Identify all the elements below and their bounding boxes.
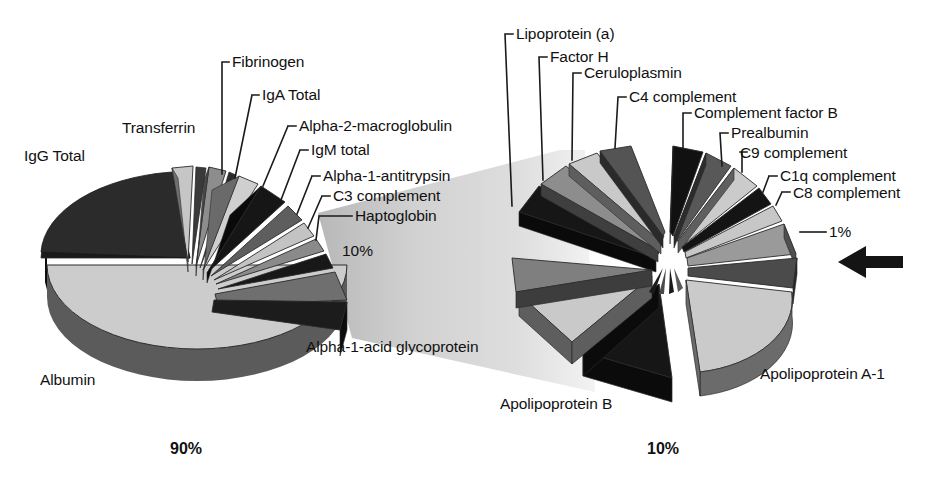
label-c3-complement: C3 complement bbox=[333, 188, 440, 204]
label-ceruloplasmin: Ceruloplasmin bbox=[584, 65, 682, 81]
leader-ceruloplasmin bbox=[572, 73, 581, 160]
leader-c3-complement bbox=[308, 196, 330, 228]
arrow-left-icon bbox=[838, 246, 903, 278]
label-haptoglobin: Haptoglobin bbox=[355, 208, 437, 224]
leader-c4-complement bbox=[615, 97, 626, 148]
right-pie-inner-percent: 1% bbox=[829, 224, 851, 240]
leader-alpha-2-macroglobulin bbox=[263, 126, 296, 186]
leader-fibrinogen bbox=[222, 62, 229, 174]
leader-c1q-complement bbox=[763, 176, 777, 192]
label-apolipoprotein-a1: Apolipoprotein A-1 bbox=[760, 366, 885, 382]
label-prealbumin: Prealbumin bbox=[731, 125, 808, 141]
left-pie-footer-percent: 90% bbox=[170, 441, 202, 457]
leader-c8-complement bbox=[776, 192, 790, 205]
leader-prealbumin bbox=[720, 133, 728, 166]
label-c1q-complement: C1q complement bbox=[780, 168, 896, 184]
figure-root: IgG Total Transferrin Fibrinogen IgA Tot… bbox=[0, 0, 952, 489]
label-lipoprotein-a: Lipoprotein (a) bbox=[516, 26, 614, 42]
label-igm-total: IgM total bbox=[311, 142, 370, 158]
right-pie-footer-percent: 10% bbox=[647, 441, 679, 457]
label-apolipoprotein-b: Apolipoprotein B bbox=[500, 396, 612, 412]
leader-complement-factor-b bbox=[683, 113, 691, 148]
left-pie-inner-percent: 10% bbox=[342, 243, 373, 259]
label-factor-h: Factor H bbox=[550, 49, 609, 65]
label-alpha-1-acid-glycoprotein: Alpha-1-acid glycoprotein bbox=[306, 339, 478, 355]
label-fibrinogen: Fibrinogen bbox=[232, 54, 304, 70]
label-complement-factor-b: Complement factor B bbox=[694, 105, 838, 121]
leader-factor-h bbox=[539, 57, 547, 180]
label-igg-total: IgG Total bbox=[24, 148, 85, 164]
leader-lipoprotein-a bbox=[505, 34, 513, 206]
leader-lines-layer bbox=[0, 0, 952, 489]
label-alpha-2-macroglobulin: Alpha-2-macroglobulin bbox=[299, 118, 452, 134]
label-iga-total: IgA Total bbox=[262, 87, 320, 103]
label-alpha-1-antitrypsin: Alpha-1-antitrypsin bbox=[323, 168, 450, 184]
label-transferrin: Transferrin bbox=[122, 120, 195, 136]
leader-iga-total bbox=[235, 95, 259, 178]
leader-igm-total bbox=[281, 150, 308, 200]
label-c8-complement: C8 complement bbox=[793, 185, 900, 201]
leader-haptoglobin bbox=[316, 216, 352, 240]
label-c9-complement: C9 complement bbox=[740, 145, 847, 161]
label-c4-complement: C4 complement bbox=[629, 89, 736, 105]
label-albumin: Albumin bbox=[40, 372, 95, 388]
